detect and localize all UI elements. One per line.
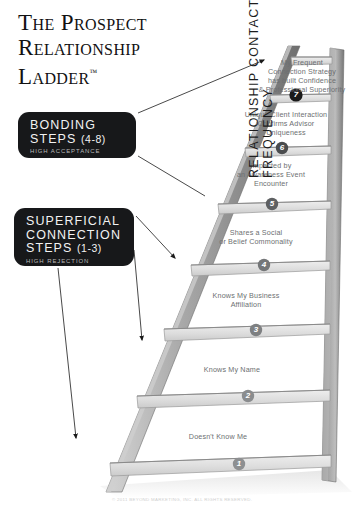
- callout-bonding-subtitle: HIGH ACCEPTANCE: [30, 148, 126, 154]
- callout-bonding-steps[interactable]: BONDING STEPS (4-8) HIGH ACCEPTANCE: [18, 112, 136, 158]
- callout-bonding-line-2-wrap: STEPS (4-8): [30, 133, 126, 147]
- callout-superficial-line-3-wrap: STEPS (1-3): [26, 242, 124, 256]
- callout-superficial-line-2: CONNECTION: [26, 229, 124, 243]
- step-label-1: Doesn't Know Me: [158, 432, 278, 441]
- step-number-4: 4: [258, 259, 270, 270]
- callout-superficial-subtitle: HIGH REJECTION: [26, 258, 124, 264]
- step-label-2: Knows My Name: [172, 365, 292, 374]
- axis-label-relationship-contact-frequency: RELATIONSHIP CONTACT FREQUENCY: [247, 0, 275, 178]
- callout-superficial-line-1: SUPERFICIAL: [26, 215, 124, 229]
- connector-bonding-lower: [138, 156, 205, 196]
- step-number-1: 1: [233, 458, 245, 469]
- callout-superficial-line-3: STEPS: [26, 241, 73, 255]
- ladder-rung-3: [164, 324, 330, 341]
- callout-bonding-line-1: BONDING: [30, 119, 126, 133]
- callout-bonding-line-2: STEPS: [30, 132, 77, 146]
- connector-superficial-lower: [58, 268, 76, 438]
- prospect-relationship-ladder-infographic: The Prospect Relationship Ladder™: [0, 0, 358, 511]
- connector-bonding-top: [138, 60, 264, 113]
- callout-superficial-range: (1-3): [77, 242, 102, 254]
- step-label-3: Knows My Business Affiliation: [186, 291, 306, 309]
- connector-superficial-mid: [134, 250, 142, 340]
- step-number-2: 2: [242, 390, 254, 401]
- copyright-notice: © 2011 BEYOND MARKETING, INC. ALL RIGHTS…: [112, 497, 252, 502]
- callout-bonding-range: (4-8): [81, 133, 106, 145]
- step-number-6: 6: [276, 142, 288, 153]
- step-number-3: 3: [250, 324, 262, 335]
- callout-superficial-connection-steps[interactable]: SUPERFICIAL CONNECTION STEPS (1-3) HIGH …: [14, 208, 134, 266]
- ladder-rung-2: [137, 390, 330, 408]
- step-number-5: 5: [266, 198, 278, 209]
- step-number-7: 7: [290, 89, 302, 100]
- step-label-4: Shares a Social or Belief Commonality: [196, 228, 316, 246]
- connector-superficial-upper: [136, 216, 175, 258]
